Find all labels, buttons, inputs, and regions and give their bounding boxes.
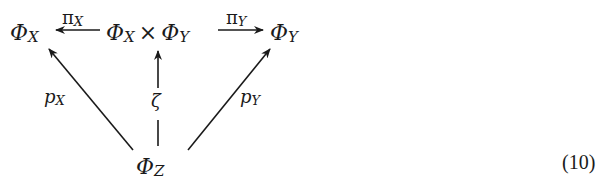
phi-symbol: Φ (136, 154, 154, 179)
subscript: Y (238, 14, 247, 29)
label-pi-x: πX (62, 9, 83, 27)
subscript: Z (154, 162, 164, 180)
phi-symbol: Φ (161, 20, 179, 45)
p-symbol: p (240, 86, 252, 107)
zeta-symbol: ζ (151, 90, 161, 111)
subscript: Y (252, 93, 261, 108)
subscript: Y (179, 28, 189, 46)
node-product: ΦX×ΦY (106, 22, 189, 44)
times-operator: × (139, 20, 157, 45)
label-p-x: pX (44, 88, 65, 106)
phi-symbol: Φ (106, 20, 124, 45)
label-zeta: ζ (151, 92, 161, 110)
pi-symbol: π (62, 7, 74, 28)
p-symbol: p (44, 86, 56, 107)
node-phi-z: ΦZ (136, 156, 164, 178)
node-phi-x: ΦX (10, 22, 39, 44)
subscript: Y (288, 28, 298, 46)
pi-symbol: π (226, 7, 238, 28)
node-phi-y: ΦY (270, 22, 298, 44)
subscript: X (124, 28, 135, 46)
phi-symbol: Φ (270, 20, 288, 45)
label-pi-y: πY (226, 9, 246, 27)
label-p-y: pY (240, 88, 260, 106)
arrows-layer (0, 0, 616, 186)
phi-symbol: Φ (10, 20, 28, 45)
equation-number: (10) (562, 152, 595, 172)
subscript: X (28, 28, 39, 46)
subscript: X (74, 14, 83, 29)
subscript: X (56, 93, 65, 108)
